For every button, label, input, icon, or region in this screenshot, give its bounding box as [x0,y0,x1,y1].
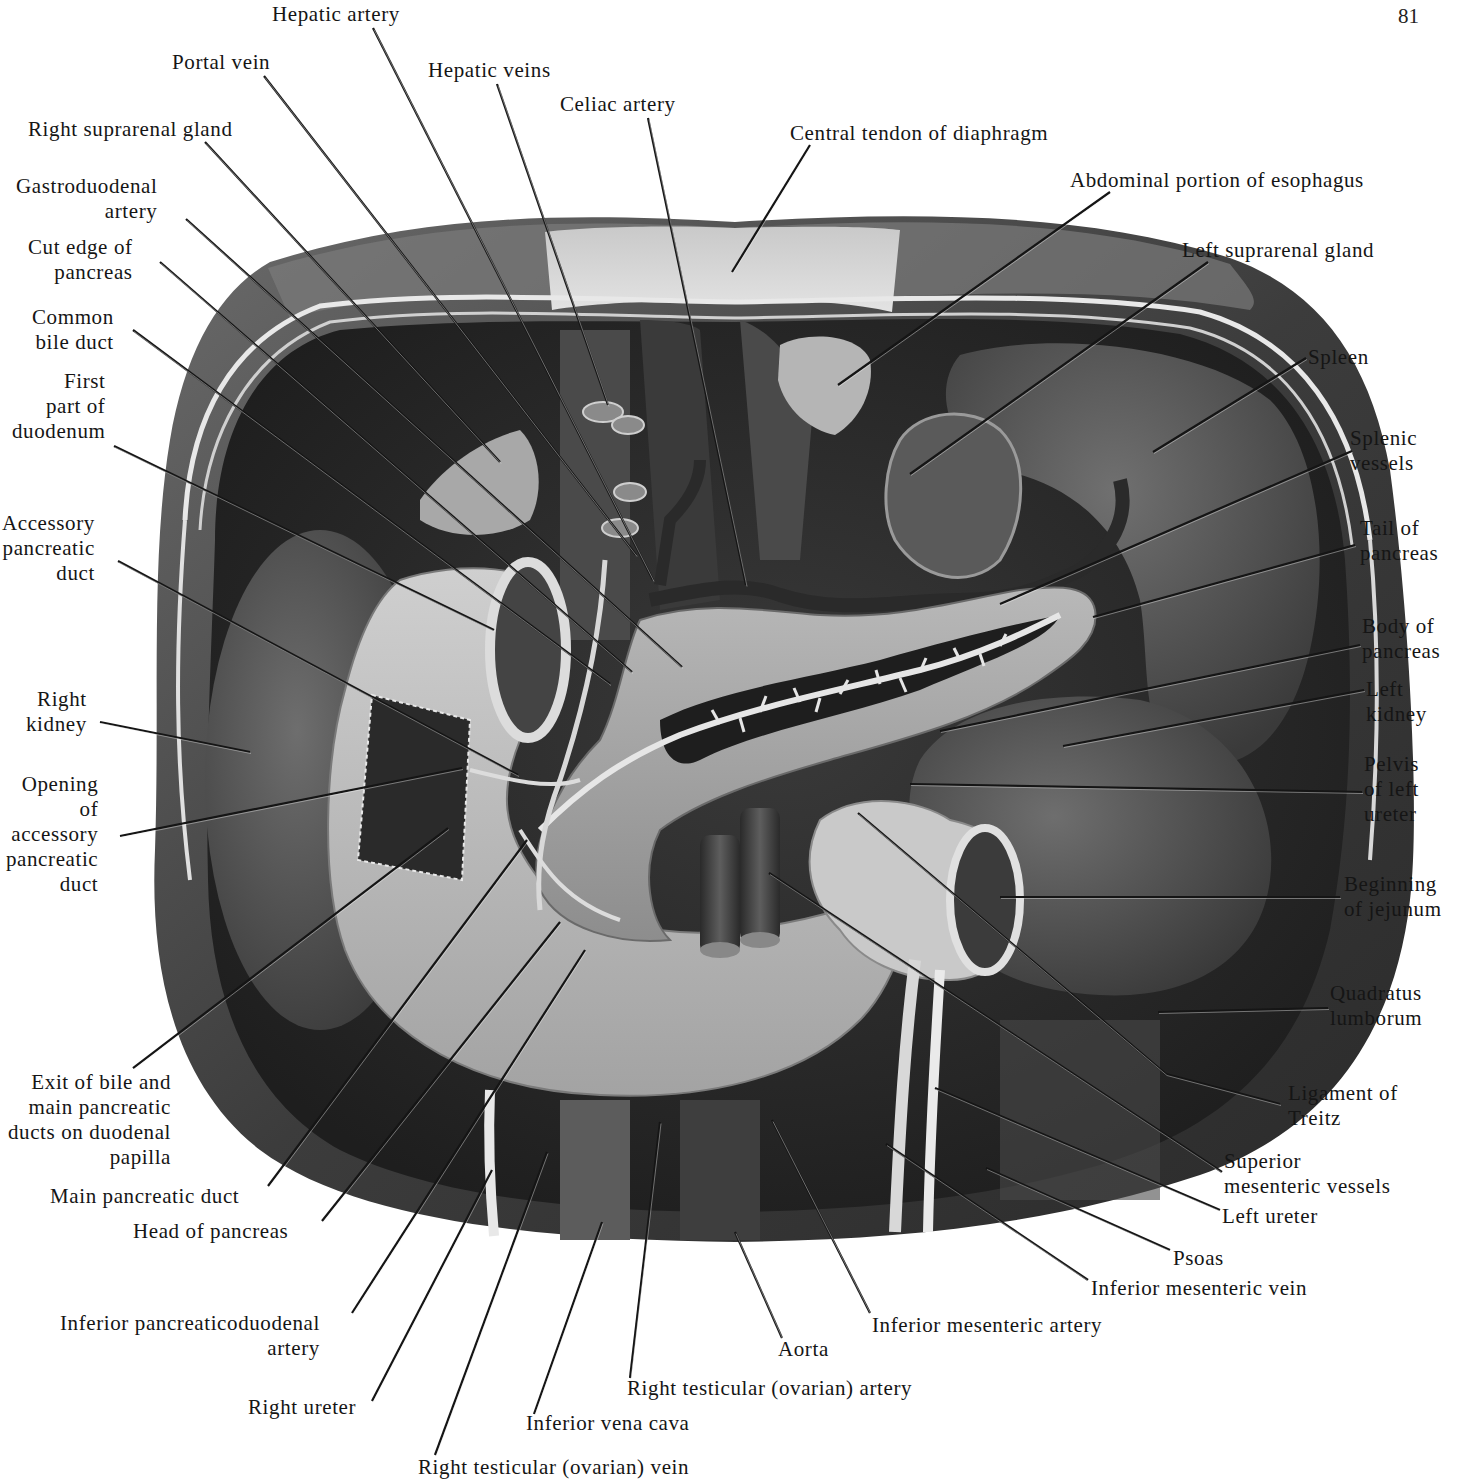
leader-line-highlight [535,1224,603,1416]
label-left-ureter: Left ureter [1222,1204,1318,1229]
label-quadratus-lumborum: Quadratus lumborum [1330,981,1422,1031]
label-aorta: Aorta [778,1337,829,1362]
label-right-suprarenal: Right suprarenal gland [28,117,233,142]
label-hepatic-veins: Hepatic veins [428,58,551,83]
label-beginning-jejunum: Beginning of jejunum [1344,872,1442,922]
label-spleen: Spleen [1308,345,1369,370]
label-hepatic-artery: Hepatic artery [272,2,400,27]
label-exit-bile-ducts: Exit of bile and main pancreatic ducts o… [8,1070,171,1170]
label-main-pancreatic-duct: Main pancreatic duct [50,1184,239,1209]
label-head-of-pancreas: Head of pancreas [133,1219,288,1244]
label-first-part-duodenum: First part of duodenum [12,369,105,444]
label-left-suprarenal: Left suprarenal gland [1182,238,1374,263]
label-celiac-artery: Celiac artery [560,92,676,117]
label-body-of-pancreas: Body of pancreas [1362,614,1440,664]
label-right-ureter: Right ureter [248,1395,356,1420]
leader-line-inferior-vena-cava [534,1222,602,1414]
label-opening-accessory-duct: Opening of accessory pancreatic duct [6,772,98,897]
label-superior-mesenteric-vessels: Superior mesenteric vessels [1224,1149,1391,1199]
label-common-bile-duct: Common bile duct [32,305,114,355]
duodenal-window [358,695,470,880]
label-right-kidney: Right kidney [26,687,87,737]
label-left-kidney: Left kidney [1366,677,1427,727]
label-splenic-vessels: Splenic vessels [1350,426,1417,476]
label-portal-vein: Portal vein [172,50,270,75]
label-tail-of-pancreas: Tail of pancreas [1360,516,1438,566]
left-suprarenal-shape [886,414,1021,577]
label-gastroduodenal-artery: Gastroduodenal artery [16,174,157,224]
duodenum-opening [490,562,566,738]
anatomy-illustration [0,0,1469,1482]
label-inferior-mesenteric-artery: Inferior mesenteric artery [872,1313,1102,1338]
label-abdominal-esophagus: Abdominal portion of esophagus [1070,168,1364,193]
label-accessory-pancreatic-duct: Accessory pancreatic duct [2,511,95,586]
label-right-testicular-artery: Right testicular (ovarian) artery [627,1376,912,1401]
label-pelvis-left-ureter: Pelvis of left ureter [1364,752,1419,827]
label-ligament-of-treitz: Ligament of Treitz [1288,1081,1398,1131]
label-psoas: Psoas [1173,1246,1224,1271]
label-right-testicular-vein: Right testicular (ovarian) vein [418,1455,689,1480]
label-inferior-pancreaticoduodenal-artery: Inferior pancreaticoduodenal artery [60,1311,320,1361]
label-inferior-mesenteric-vein: Inferior mesenteric vein [1091,1276,1307,1301]
page-number: 81 [1398,4,1419,29]
label-cut-edge-pancreas: Cut edge of pancreas [28,235,133,285]
label-central-tendon: Central tendon of diaphragm [790,121,1048,146]
label-inferior-vena-cava: Inferior vena cava [526,1411,690,1436]
leader-line-highlight [736,1234,783,1340]
